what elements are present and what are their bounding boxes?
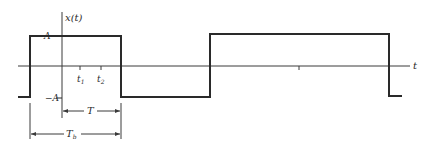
signal-label: x(t)	[65, 12, 83, 23]
time-axis-label: t	[413, 60, 418, 71]
square-wave-diagram: t x(t) A −A t1 t2 T Tb	[0, 0, 425, 143]
arrowhead-T-right	[115, 109, 120, 113]
arrowhead-T-left	[63, 109, 68, 113]
arrowhead-Tb-left	[31, 132, 36, 136]
arrowhead-Tb-right	[115, 132, 120, 136]
tick-label-t1: t1	[77, 74, 84, 85]
dimension-T-label: T	[87, 105, 95, 116]
dimension-Tb-label: Tb	[66, 128, 77, 140]
tick-label-t2: t2	[97, 74, 105, 85]
